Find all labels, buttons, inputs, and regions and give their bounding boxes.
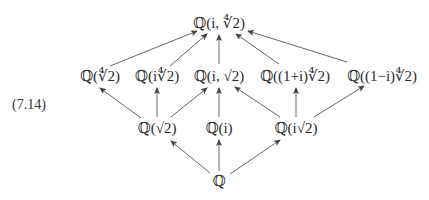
node-top-field: ℚ(i, ∜2) xyxy=(193,16,245,31)
node-q-fourth-root-2: ℚ(∜2) xyxy=(80,69,120,84)
node-q-1minus-i-fourth-root-2: ℚ((1−i)∜2) xyxy=(347,69,417,84)
inclusion-arrow xyxy=(110,31,197,66)
node-q-i: ℚ(i) xyxy=(205,121,232,136)
inclusion-arrow xyxy=(171,88,207,117)
inclusion-arrow xyxy=(230,140,280,174)
node-q-sqrt2: ℚ(√2) xyxy=(138,121,177,136)
node-q-i-sqrt2: ℚ(i√2) xyxy=(275,121,318,136)
node-q-base-field: ℚ xyxy=(212,174,225,189)
inclusion-arrow xyxy=(171,141,210,173)
node-q-1plus-i-fourth-root-2: ℚ((1+i)∜2) xyxy=(260,69,330,84)
node-q-i-fourth-root-2: ℚ(i∜2) xyxy=(135,69,179,84)
inclusion-arrow xyxy=(100,88,141,118)
inclusion-arrow xyxy=(170,34,207,66)
node-q-i-comma-sqrt2: ℚ(i, √2) xyxy=(194,69,244,84)
inclusion-arrow xyxy=(248,31,347,62)
inclusion-arrow xyxy=(235,87,280,117)
inclusion-arrow xyxy=(314,86,364,117)
